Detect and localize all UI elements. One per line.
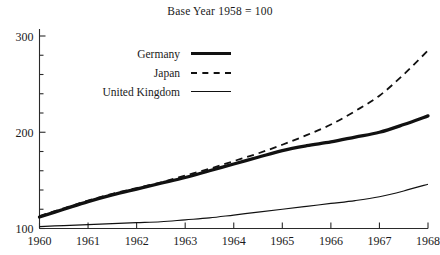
x-axis-ticks (40, 223, 429, 229)
y-axis-tick-label: 200 (16, 126, 34, 140)
series-line-united-kingdom (40, 184, 429, 226)
line-chart-figure: Base Year 1958 = 100 Germany Japan Unite… (0, 0, 440, 255)
axis-group: 100200300 196019611962196319641965196619… (16, 29, 440, 248)
series-line-germany (40, 116, 429, 217)
x-axis-tick-label: 1961 (76, 234, 100, 248)
series-group (40, 50, 429, 226)
y-axis-ticks (40, 36, 46, 229)
plot-area: 100200300 196019611962196319641965196619… (0, 0, 440, 255)
x-axis-tick-label: 1963 (173, 234, 197, 248)
x-axis-tick-label: 1962 (125, 234, 149, 248)
y-axis-tick-labels: 100200300 (16, 30, 34, 237)
x-axis-tick-label: 1966 (319, 234, 343, 248)
x-axis-tick-labels: 196019611962196319641965196619671968 (28, 234, 440, 248)
x-axis-tick-label: 1964 (222, 234, 246, 248)
x-axis-tick-label: 1960 (28, 234, 52, 248)
x-axis-tick-label: 1965 (270, 234, 294, 248)
x-axis-tick-label: 1967 (367, 234, 391, 248)
y-axis-tick-label: 300 (16, 30, 34, 44)
x-axis-tick-label: 1968 (416, 234, 440, 248)
